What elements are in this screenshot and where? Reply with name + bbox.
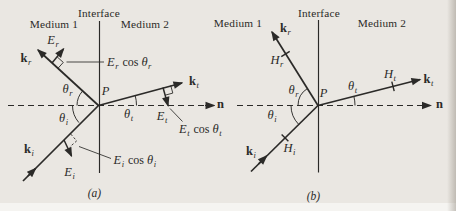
- interface-label-b: Interface: [298, 8, 340, 19]
- hi-label: Hi: [284, 142, 296, 155]
- kr-label-a: kr: [21, 51, 32, 64]
- theta-i-label-a: θi: [59, 112, 68, 125]
- medium2-label-b: Medium 2: [358, 18, 406, 29]
- theta-t-label-a: θt: [124, 107, 133, 120]
- kt-label-b: kt: [424, 73, 434, 86]
- theta-r-label-a: θr: [63, 83, 73, 96]
- kt-label-a: kt: [189, 75, 199, 88]
- leader-line-et: [170, 109, 183, 122]
- e-field-incident-arrow: [64, 140, 72, 156]
- er-cos-projection-label: Ercosθr: [107, 56, 151, 69]
- medium2-label-a: Medium 2: [121, 19, 169, 30]
- e-field-transmitted-arrow: [163, 88, 168, 106]
- angle-arc-reflected-b: [298, 89, 307, 106]
- medium1-label-b: Medium 1: [214, 18, 262, 29]
- right-angle-mark-er: [57, 57, 63, 68]
- et-cos-projection-label: Etcosθt: [179, 123, 222, 136]
- figure-reflection-refraction: Interface Medium 1 Medium 2 kr ki kt Er …: [0, 0, 456, 211]
- ei-label: Ei: [64, 165, 75, 178]
- ki-label-a: ki: [24, 143, 34, 156]
- ki-label-b: ki: [246, 144, 256, 157]
- transmitted-ray-b: [318, 80, 420, 106]
- interface-label-a: Interface: [78, 8, 120, 19]
- caption-a: (a): [88, 188, 101, 200]
- theta-i-label-b: θi: [267, 108, 276, 121]
- theta-r-label-b: θr: [289, 84, 299, 97]
- scan-bottom-edge: [0, 203, 456, 211]
- normal-n-label-a: n: [217, 97, 224, 110]
- diagram-linework: [0, 0, 456, 211]
- angle-arc-reflected-a: [77, 91, 83, 105]
- et-label: Et: [157, 109, 168, 122]
- angle-arc-transmitted-a: [135, 96, 136, 106]
- angle-arc-incident-a: [72, 106, 78, 123]
- point-p-label-b: P: [320, 86, 328, 99]
- reflected-ray-a: [38, 50, 99, 106]
- point-p-label-a: P: [102, 84, 110, 97]
- caption-b: (b): [307, 191, 320, 203]
- normal-n-label-b: n: [436, 97, 443, 110]
- theta-t-label-b: θt: [348, 79, 357, 92]
- angle-arc-transmitted-b: [354, 96, 355, 105]
- medium1-label-a: Medium 1: [30, 19, 78, 30]
- ei-cos-projection-label: Eicosθi: [114, 153, 157, 166]
- ht-label: Ht: [384, 68, 396, 81]
- scan-right-edge-shadow: [447, 0, 456, 211]
- hr-label: Hr: [271, 54, 284, 67]
- incident-ray-arrowhead-a: [28, 169, 36, 177]
- angle-arc-incident-b: [291, 106, 299, 125]
- er-label: Er: [47, 33, 58, 46]
- right-angle-mark-ei: [70, 134, 77, 147]
- leader-line-ei: [79, 147, 111, 159]
- kr-label-b: kr: [280, 22, 291, 35]
- incident-ray-arrowhead-b: [259, 156, 267, 164]
